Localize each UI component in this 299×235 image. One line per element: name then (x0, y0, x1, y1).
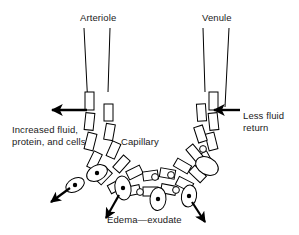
cell-free-left (63, 174, 87, 195)
outflow-arrow-left (51, 188, 70, 202)
label-arteriole: Arteriole (80, 12, 116, 24)
label-increased-fluid-protein-cells: Increased fluid, protein, and cells (12, 124, 86, 147)
label-venule: Venule (202, 12, 232, 24)
label-edema-exudate: Edema—exudate (107, 214, 182, 226)
label-capillary: Capillary (121, 136, 159, 148)
escaping-cells (63, 153, 221, 211)
label-less-fluid-return: Less fluid return (243, 110, 284, 133)
outflow-arrow-right (192, 202, 205, 222)
capillary-edema-diagram: Arteriole Venule Capillary Increased flu… (0, 0, 299, 235)
